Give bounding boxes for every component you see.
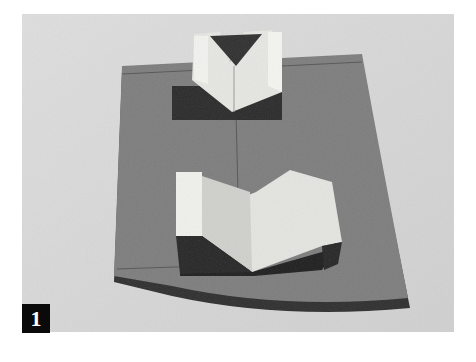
film-grain bbox=[22, 14, 454, 332]
figure-number-badge: 1 bbox=[22, 304, 50, 333]
photograph bbox=[22, 14, 454, 332]
photo-scene bbox=[22, 14, 454, 332]
